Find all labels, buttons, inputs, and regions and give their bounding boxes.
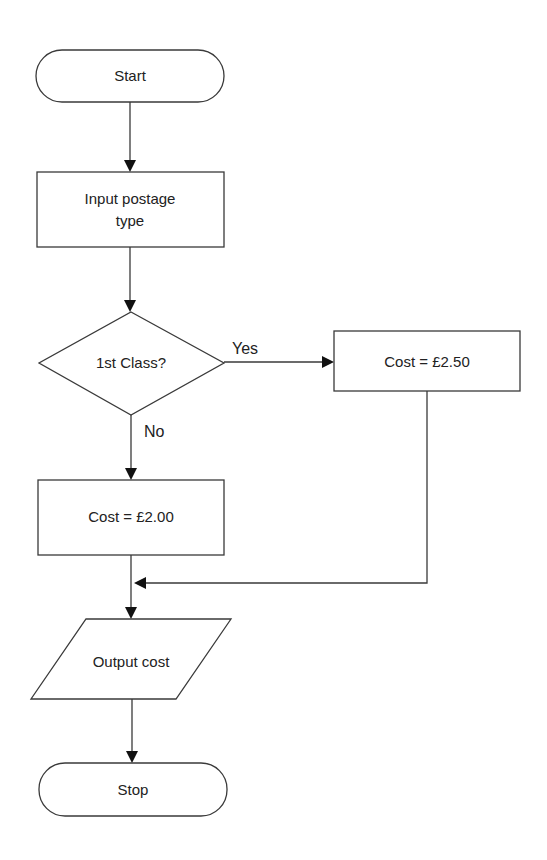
stop-node: Stop — [39, 763, 227, 816]
arrow-down-icon — [124, 160, 136, 172]
decision-node: 1st Class? — [39, 312, 224, 415]
arrow-down-icon — [125, 468, 137, 480]
input-postage-node: Input postage type — [37, 172, 224, 247]
output-cost-node: Output cost — [31, 619, 231, 699]
arrow-left-icon — [134, 577, 146, 589]
no-label: No — [144, 423, 165, 440]
cost-second-class-label: Cost = £2.00 — [88, 508, 173, 525]
edge-no: No — [125, 415, 165, 480]
edge-output-stop — [126, 699, 138, 763]
arrow-right-icon — [322, 356, 334, 368]
arrow-down-icon — [126, 751, 138, 763]
input-label-line2: type — [116, 212, 144, 229]
edge-yes: Yes — [224, 340, 334, 368]
flowchart: Start Input postage type 1st Class? Yes … — [0, 0, 547, 860]
arrow-down-icon — [125, 607, 137, 619]
start-node: Start — [36, 50, 224, 102]
output-cost-label: Output cost — [93, 653, 171, 670]
yes-label: Yes — [232, 340, 258, 357]
cost-second-class-node: Cost = £2.00 — [38, 480, 224, 555]
cost-first-class-label: Cost = £2.50 — [384, 353, 469, 370]
decision-label: 1st Class? — [96, 354, 166, 371]
edge-input-decision — [124, 247, 136, 312]
edge-cost-output — [125, 555, 137, 619]
arrow-down-icon — [124, 300, 136, 312]
edge-start-input — [124, 102, 136, 172]
start-label: Start — [114, 67, 147, 84]
stop-label: Stop — [118, 781, 149, 798]
input-label-line1: Input postage — [85, 190, 176, 207]
cost-first-class-node: Cost = £2.50 — [334, 331, 520, 391]
